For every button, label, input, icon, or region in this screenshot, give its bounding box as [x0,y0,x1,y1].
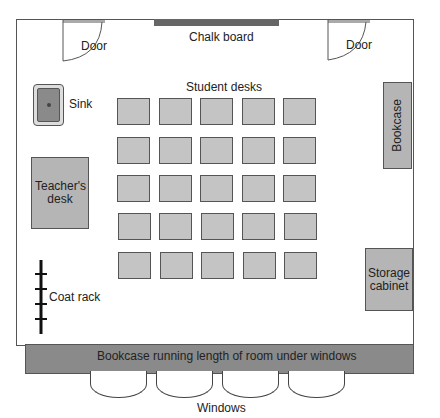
windows-label: Windows [197,401,246,415]
student-desk [242,137,275,164]
teachers-desk: Teacher's desk [31,157,89,229]
sink-label: Sink [69,97,92,111]
student-desk [117,98,150,125]
student-desk [160,252,193,279]
student-desks-label: Student desks [186,80,262,94]
student-desk [201,252,234,279]
student-desk [118,213,151,240]
student-desk [283,137,316,164]
bookcase-right-label: Bookcase [391,99,404,152]
bookcase-right: Bookcase [383,82,412,169]
coat-rack-icon [33,259,49,335]
student-desk [159,98,192,125]
student-desk [283,175,316,202]
student-desk [159,175,192,202]
student-desk [117,137,150,164]
drain-icon [47,103,51,107]
student-desk [242,98,275,125]
wall-right [413,19,414,346]
storage-cabinet-label: Storage cabinet [367,267,411,293]
window [222,371,279,398]
window [90,371,147,398]
chalk-board-label: Chalk board [189,30,254,44]
student-desk [200,175,233,202]
sink [33,84,64,126]
student-desk [283,98,316,125]
window [288,371,345,398]
bookcase-bottom-label: Bookcase running length of room under wi… [97,349,357,363]
coat-rack-label: Coat rack [49,290,100,304]
teachers-desk-label: Teacher's desk [35,180,85,206]
student-desk [118,252,151,279]
student-desk [284,252,317,279]
student-desk [243,252,276,279]
student-desk [201,213,234,240]
door-left-label: Door [81,39,107,53]
wall-left [16,19,17,346]
student-desk [159,213,192,240]
window [156,371,213,398]
student-desk [242,175,275,202]
student-desk [117,175,150,202]
student-desk [200,98,233,125]
chalk-board [154,19,279,26]
student-desk [200,137,233,164]
door-right-label: Door [346,38,372,52]
storage-cabinet: Storage cabinet [365,248,413,311]
student-desk [284,213,317,240]
student-desk [159,137,192,164]
student-desk [242,213,275,240]
